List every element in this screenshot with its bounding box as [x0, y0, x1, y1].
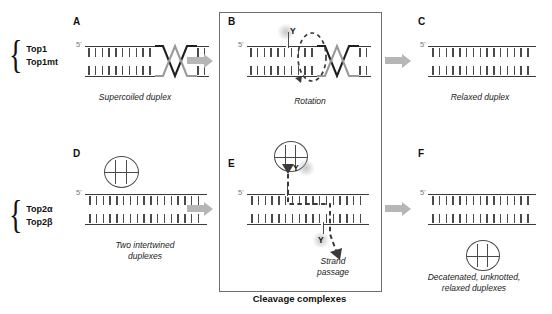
five-prime-label-f: 5' [420, 188, 426, 197]
panel-letter-b: B [228, 16, 235, 27]
caption-f: Decatenated, unknotted, relaxed duplexes [398, 272, 550, 294]
dna-bases-top [432, 48, 534, 57]
five-prime-label-c: 5' [420, 40, 426, 49]
dna-backbone-bottom [85, 224, 207, 225]
tyrosine-stalk [288, 32, 289, 48]
end-on-duplex-icon-f [466, 240, 500, 271]
dna-backbone-top [428, 46, 536, 47]
panel-letter-c: C [418, 16, 425, 27]
figure-canvas: { Top1 Top1mt { Top2α Top2β Cleavage com… [0, 0, 552, 314]
dna-backbone-top [428, 194, 536, 195]
dna-bases-bottom [88, 66, 156, 75]
enzyme-group-top2: { Top2α Top2β [6, 196, 53, 234]
enzyme-label-top2alpha: Top2α [26, 204, 52, 214]
panel-letter-a: A [73, 16, 80, 27]
rotation-arrow-icon [290, 30, 334, 86]
dna-backbone-bottom [428, 76, 536, 77]
caption-e: Strand passage [290, 256, 376, 278]
five-prime-label-b: 5' [238, 40, 244, 49]
arrow-d-to-e [187, 204, 213, 213]
five-prime-label-e: 5' [238, 188, 244, 197]
dna-duplex-f [428, 194, 538, 226]
enzyme-label-top1: Top1 [26, 44, 58, 54]
caption-c: Relaxed duplex [410, 92, 550, 103]
caption-d: Two intertwined duplexes [60, 240, 230, 262]
curly-brace-icon: { [9, 36, 22, 74]
five-prime-label-a: 5' [76, 40, 82, 49]
caption-a: Supercoiled duplex [60, 92, 210, 103]
dna-bases-bottom [432, 214, 534, 223]
dna-backbone-bottom [428, 224, 536, 225]
enzyme-label-top2beta: Top2β [26, 217, 52, 227]
curly-brace-icon: { [9, 196, 22, 234]
panel-letter-e: E [228, 158, 235, 169]
cleavage-complex-label: Cleavage complexes [219, 293, 380, 304]
panel-letter-f: F [418, 148, 424, 159]
dna-bases-top-right [359, 48, 373, 57]
arrow-e-to-f [385, 204, 411, 213]
dna-duplex-c [428, 46, 538, 78]
dna-bases-bottom-right [359, 66, 373, 75]
dna-bases-top [88, 48, 156, 57]
dna-bases-top [432, 196, 534, 205]
dna-backbone-top [85, 194, 207, 195]
dna-backbone-top-left [247, 46, 286, 47]
dna-backbone-bottom [85, 76, 157, 77]
caption-b: Rotation [260, 96, 360, 107]
dna-bases-bottom [432, 66, 534, 75]
five-prime-label-d: 5' [76, 188, 82, 197]
dna-backbone-top [85, 46, 157, 47]
enzyme-group-top1: { Top1 Top1mt [6, 36, 58, 74]
panel-letter-d: D [73, 148, 80, 159]
arrow-b-to-c [385, 56, 411, 65]
end-on-duplex-icon-d [104, 156, 139, 188]
arrow-a-to-b [187, 56, 213, 65]
enzyme-label-top1mt: Top1mt [26, 57, 58, 67]
dna-bases-bottom [89, 214, 205, 223]
strand-passage-arrow-icon [272, 160, 377, 265]
